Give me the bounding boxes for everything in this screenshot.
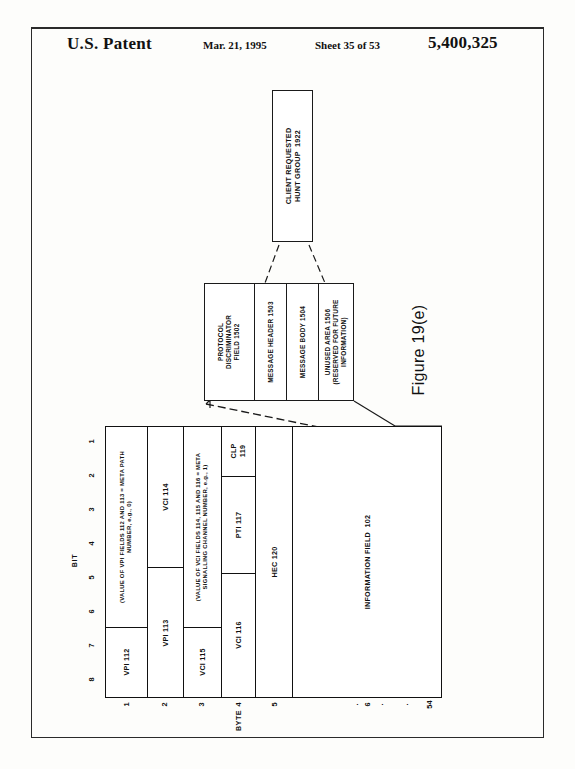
byte-tick-1: 1 xyxy=(121,697,130,713)
bit-tick-7: 7 xyxy=(87,634,96,658)
byte-axis-label: BYTE xyxy=(233,704,242,738)
cell-field-label: INFORMATION FIELD 102 xyxy=(363,515,372,609)
bit-axis-label: BIT xyxy=(70,548,79,574)
cell-field: INFORMATION FIELD 102 xyxy=(293,427,441,697)
cell-field: VCI 115 xyxy=(184,627,221,697)
bit-tick-4: 4 xyxy=(87,532,96,556)
message-segment-label: MESSAGE HEADER 1503 xyxy=(267,301,275,382)
cell-field: PTI 117 xyxy=(222,476,256,573)
cell-field-label: CLP 119 xyxy=(229,444,247,459)
bit-tick-8: 8 xyxy=(87,668,96,692)
cell-field: (VALUE OF VPI FIELDS 112 AND 113 = META … xyxy=(106,427,147,627)
cell-byte-column-1: (VALUE OF VPI FIELDS 112 AND 113 = META … xyxy=(106,427,147,697)
byte-tick-.: . xyxy=(400,697,409,713)
cell-field-label: VCI 114 xyxy=(161,484,170,511)
bit-tick-1: 1 xyxy=(87,430,96,454)
byte-tick-5: 5 xyxy=(269,697,278,713)
hunt-group-label: CLIENT REQUESTED HUNT GROUP 1922 xyxy=(284,128,302,205)
atm-cell-diagram: (VALUE OF VPI FIELDS 112 AND 113 = META … xyxy=(105,426,442,698)
patent-page: U.S. Patent Mar. 21, 1995 Sheet 35 of 53… xyxy=(0,0,575,769)
cell-field: (VALUE OF VCI FIELDS 114, 115 AND 116 = … xyxy=(184,427,221,627)
message-segment-4: UNUSED AREA 1506 (RESERVED FOR FUTURE IN… xyxy=(318,284,353,400)
byte-tick-3: 3 xyxy=(197,697,206,713)
bit-tick-3: 3 xyxy=(87,498,96,522)
cell-byte-column-6: INFORMATION FIELD 102 xyxy=(292,427,441,697)
cell-field: CLP 119 xyxy=(222,427,256,476)
message-segment-label: PROTOCOL DISCRIMINATOR FIELD 1502 xyxy=(217,315,241,369)
message-segment-3: MESSAGE BODY 1504 xyxy=(286,284,318,400)
message-segment-label: MESSAGE BODY 1504 xyxy=(299,306,307,378)
cell-byte-column-4: CLP 119PTI 117VCI 116 xyxy=(221,427,256,697)
cell-field-label: VPI 113 xyxy=(161,619,170,646)
figure-caption: Figure 19(e) xyxy=(399,270,439,430)
figure-caption-text: Figure 19(e) xyxy=(410,305,428,396)
client-requested-hunt-group-box: CLIENT REQUESTED HUNT GROUP 1922 xyxy=(272,90,313,242)
byte-tick-54: 54 xyxy=(425,697,434,713)
bit-tick-6: 6 xyxy=(87,600,96,624)
cell-byte-column-5: HEC 120 xyxy=(255,427,292,697)
cell-field: VPI 112 xyxy=(106,627,147,697)
cell-field-label: VCI 115 xyxy=(198,649,207,676)
cell-field-label: PTI 117 xyxy=(234,511,243,538)
byte-tick-.: . xyxy=(375,697,384,713)
cell-field: VPI 113 xyxy=(148,567,183,697)
cell-field-label: (VALUE OF VCI FIELDS 114, 115 AND 116 = … xyxy=(195,453,210,602)
cell-field: HEC 120 xyxy=(256,427,292,697)
cell-field-label: VPI 112 xyxy=(122,649,131,676)
cell-field-label: HEC 120 xyxy=(270,547,279,578)
cell-byte-column-2: VCI 114VPI 113 xyxy=(147,427,183,697)
byte-tick-.: . xyxy=(351,697,360,713)
message-segment-1: PROTOCOL DISCRIMINATOR FIELD 1502 xyxy=(205,284,254,400)
message-segment-label: UNUSED AREA 1506 (RESERVED FOR FUTURE IN… xyxy=(324,299,348,384)
cell-byte-column-3: (VALUE OF VCI FIELDS 114, 115 AND 116 = … xyxy=(183,427,221,697)
bit-tick-5: 5 xyxy=(87,566,96,590)
cell-field-label: (VALUE OF VPI FIELDS 112 AND 113 = META … xyxy=(119,451,134,603)
bit-axis: 12345678BIT xyxy=(60,426,105,698)
header-rule xyxy=(31,27,544,29)
cell-field: VCI 114 xyxy=(148,427,183,567)
byte-axis: 123456...54BYTE xyxy=(105,698,445,744)
patent-number: 5,400,325 xyxy=(428,33,498,53)
patent-header: U.S. Patent Mar. 21, 1995 Sheet 35 of 53… xyxy=(31,32,544,66)
sheet-number: Sheet 35 of 53 xyxy=(315,39,380,51)
bit-tick-2: 2 xyxy=(87,464,96,488)
message-segment-2: MESSAGE HEADER 1503 xyxy=(254,284,287,400)
patent-date: Mar. 21, 1995 xyxy=(203,39,267,51)
cell-field-label: VCI 116 xyxy=(234,622,243,649)
message-structure-box: PROTOCOL DISCRIMINATOR FIELD 1502MESSAGE… xyxy=(204,283,354,401)
byte-tick-6: 6 xyxy=(363,697,372,713)
byte-tick-2: 2 xyxy=(160,697,169,713)
cell-field: VCI 116 xyxy=(222,573,256,697)
patent-office-title: U.S. Patent xyxy=(67,34,152,54)
